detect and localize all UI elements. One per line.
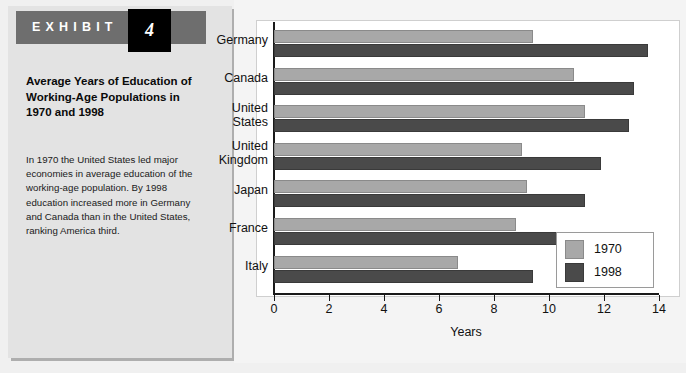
- bar-1970: [274, 143, 522, 156]
- x-tick-mark: [604, 295, 605, 301]
- x-tick-label: 4: [364, 302, 404, 316]
- bar-1970: [274, 256, 458, 269]
- legend-swatch-1970: [565, 240, 584, 259]
- legend-swatch-1998: [565, 263, 584, 282]
- x-tick-mark: [274, 295, 275, 301]
- category-label-line: States: [136, 115, 268, 129]
- exhibit-panel: EXHIBIT 4 Average Years of Education of …: [8, 6, 232, 358]
- x-tick-mark: [494, 295, 495, 301]
- bar-1998: [274, 194, 585, 207]
- category-label: France: [136, 221, 268, 235]
- exhibit-label: EXHIBIT: [32, 20, 118, 34]
- x-tick-mark: [329, 295, 330, 301]
- category-label-line: Kingdom: [136, 153, 268, 167]
- x-tick-label: 2: [309, 302, 349, 316]
- x-tick-mark: [384, 295, 385, 301]
- x-tick-label: 10: [529, 302, 569, 316]
- category-label: UnitedStates: [136, 101, 268, 129]
- x-tick-label: 12: [584, 302, 624, 316]
- x-tick-mark: [439, 295, 440, 301]
- bar-1998: [274, 82, 634, 95]
- bar-1970: [274, 218, 516, 231]
- x-tick-label: 14: [639, 302, 679, 316]
- category-label: Germany: [136, 33, 268, 47]
- bar-1998: [274, 157, 601, 170]
- bar-1998: [274, 270, 533, 283]
- category-label-line: United: [136, 101, 268, 115]
- chart-region: 02468101214 GermanyCanadaUnitedStatesUni…: [234, 0, 686, 363]
- legend-label-1970: 1970: [594, 242, 622, 256]
- x-tick-label: 0: [254, 302, 294, 316]
- bar-1970: [274, 180, 527, 193]
- bar-1970: [274, 68, 574, 81]
- bar-1998: [274, 119, 629, 132]
- category-label-line: United: [136, 139, 268, 153]
- category-label: Canada: [136, 71, 268, 85]
- x-axis-title: Years: [273, 325, 659, 339]
- bar-1970: [274, 30, 533, 43]
- category-label: Italy: [136, 259, 268, 273]
- x-axis-line: [273, 293, 659, 295]
- legend-label-1998: 1998: [594, 265, 622, 279]
- exhibit-page: EXHIBIT 4 Average Years of Education of …: [0, 0, 686, 373]
- bar-1970: [274, 105, 585, 118]
- category-label: UnitedKingdom: [136, 139, 268, 167]
- bar-1998: [274, 232, 571, 245]
- category-label: Japan: [136, 183, 268, 197]
- x-tick-label: 6: [419, 302, 459, 316]
- chart-legend: 1970 1998: [556, 232, 654, 288]
- bar-1998: [274, 44, 648, 57]
- x-tick-label: 8: [474, 302, 514, 316]
- x-tick-mark: [549, 295, 550, 301]
- x-tick-mark: [659, 295, 660, 301]
